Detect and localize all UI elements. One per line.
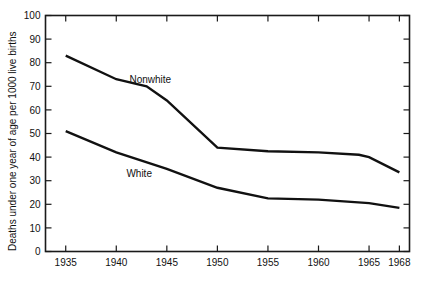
y-tick-label: 60: [29, 105, 41, 116]
x-tick-label: 1968: [388, 257, 411, 268]
infant-mortality-line-chart: Deaths under one year of age per 1000 li…: [0, 0, 428, 292]
x-tick-label: 1940: [105, 257, 128, 268]
y-tick-label: 100: [24, 10, 41, 21]
y-tick-label: 20: [29, 199, 41, 210]
y-axis-title-text: Deaths under one year of age per 1000 li…: [7, 31, 18, 251]
x-tick-label: 1955: [257, 257, 280, 268]
series-label-nonwhite: Nonwhite: [129, 74, 171, 85]
y-tick-label: 90: [29, 34, 41, 45]
y-tick-label: 80: [29, 57, 41, 68]
y-tick-label: 50: [29, 128, 41, 139]
x-tick-label: 1945: [156, 257, 179, 268]
x-tick-label: 1965: [358, 257, 381, 268]
x-tick-label: 1950: [206, 257, 229, 268]
chart-canvas: Deaths under one year of age per 1000 li…: [0, 0, 428, 292]
y-tick-label: 30: [29, 175, 41, 186]
y-tick-label: 0: [35, 246, 41, 257]
y-tick-label: 40: [29, 152, 41, 163]
y-axis-title: Deaths under one year of age per 1000 li…: [7, 31, 18, 251]
y-tick-label: 10: [29, 223, 41, 234]
series-label-white: White: [126, 168, 152, 179]
x-tick-label: 1935: [55, 257, 78, 268]
x-tick-label: 1960: [307, 257, 330, 268]
y-tick-label: 70: [29, 81, 41, 92]
